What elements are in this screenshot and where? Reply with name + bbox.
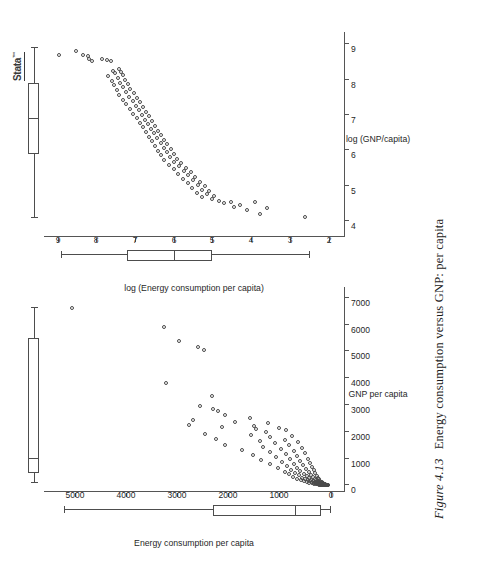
scatter-point xyxy=(223,443,227,447)
scatter-point xyxy=(141,105,145,109)
scatter-point xyxy=(162,158,166,162)
scatter-point xyxy=(177,164,181,168)
x-tick xyxy=(345,404,349,405)
scatter-point xyxy=(265,206,269,210)
boxplot-whisker-cap xyxy=(64,507,65,514)
scatter-point xyxy=(200,188,204,192)
x-tick xyxy=(345,324,349,325)
scatter-point xyxy=(279,447,283,451)
x-tick xyxy=(345,458,349,459)
scatter-point xyxy=(303,451,307,455)
scatter-point xyxy=(258,439,262,443)
scatter-point xyxy=(232,205,236,209)
y-tick-label: 4000 xyxy=(116,490,135,500)
y-tick-label: 2 xyxy=(326,235,331,245)
x-tick xyxy=(345,484,349,485)
scatter-point xyxy=(121,85,125,89)
y-tick-label: 9 xyxy=(55,235,60,245)
boxplot-median-line xyxy=(174,250,175,261)
scatter-point xyxy=(196,345,200,349)
scatter-point xyxy=(292,449,296,453)
scatter-point xyxy=(116,76,120,80)
scatter-point xyxy=(131,112,135,116)
scatter-point xyxy=(124,102,128,106)
boxplot-whisker-cap xyxy=(31,482,38,483)
x-tick xyxy=(345,297,349,298)
scatter-point xyxy=(81,53,85,57)
scatter-point xyxy=(211,407,215,411)
scatter-point xyxy=(326,483,330,487)
y-tick-label: 7 xyxy=(133,235,138,245)
x-tick-label: 7000 xyxy=(351,298,370,308)
scatter-point xyxy=(266,421,270,425)
scatter-point xyxy=(153,124,157,128)
scatter-point xyxy=(277,426,281,430)
scatter-point xyxy=(292,462,296,466)
scatter-point xyxy=(290,434,294,438)
scatter-point xyxy=(118,81,122,85)
scatter-point xyxy=(128,87,132,91)
x-tick-label: 6000 xyxy=(351,325,370,335)
x-tick xyxy=(345,79,349,80)
scatter-point xyxy=(289,468,293,472)
scatter-point xyxy=(220,425,224,429)
scatter-point xyxy=(273,442,277,446)
scatter-point xyxy=(248,416,252,420)
y-tick-label: 5000 xyxy=(65,490,84,500)
scatter-point xyxy=(186,174,190,178)
x-tick xyxy=(345,377,349,378)
x-tick-label: 1000 xyxy=(351,459,370,469)
y-tick-label: 4 xyxy=(249,235,254,245)
scatter-point xyxy=(150,139,154,143)
x-tick-label: 2000 xyxy=(351,432,370,442)
x-tick-label: 0 xyxy=(351,485,356,495)
boxplot-median-line xyxy=(295,505,296,516)
scatter-point xyxy=(284,452,288,456)
scatter-point xyxy=(251,453,255,457)
scatter-point xyxy=(172,160,176,164)
scatter-point xyxy=(112,83,116,87)
scatter-point xyxy=(127,95,131,99)
scatter-point xyxy=(190,186,194,190)
y-tick-label: 0 xyxy=(328,490,333,500)
y-tick-label: 6 xyxy=(171,235,176,245)
scatter-point xyxy=(152,131,156,135)
scatter-point xyxy=(172,152,176,156)
scatter-point xyxy=(229,200,233,204)
x-tick xyxy=(345,114,349,115)
scatter-point xyxy=(245,209,249,213)
boxplot-whisker-cap xyxy=(31,307,38,308)
scatter-point xyxy=(177,339,181,343)
x-tick xyxy=(345,43,349,44)
x-tick xyxy=(345,149,349,150)
scatter-point xyxy=(249,433,253,437)
y-axis-title: log (Energy consumption per capita) xyxy=(124,283,264,293)
boxplot-whisker-cap xyxy=(31,217,38,218)
scatter-point xyxy=(167,163,171,167)
boxplot-median-line xyxy=(28,118,39,119)
x-tick-label: 8 xyxy=(351,80,356,90)
scatter-point xyxy=(176,172,180,176)
scatter-point xyxy=(121,73,125,77)
scatter-point xyxy=(259,458,263,462)
y-tick-label: 5 xyxy=(210,235,215,245)
scatter-point xyxy=(124,90,128,94)
scatter-point xyxy=(186,181,190,185)
y-tick-label: 3 xyxy=(287,235,292,245)
scatter-point xyxy=(115,88,119,92)
y-tick-label: 2000 xyxy=(219,490,238,500)
y-axis-line xyxy=(44,491,344,492)
scatter-point xyxy=(191,418,195,422)
x-tick xyxy=(345,431,349,432)
x-tick-label: 4 xyxy=(351,221,356,231)
boxplot-whisker-cap xyxy=(309,252,310,259)
scatter-point xyxy=(268,450,272,454)
scatter-point xyxy=(210,197,214,201)
scatter-point xyxy=(222,201,226,205)
y-tick-label: 8 xyxy=(94,235,99,245)
scatter-point xyxy=(274,455,278,459)
scatter-point xyxy=(162,138,166,142)
scatter-point xyxy=(261,445,265,449)
scatter-point xyxy=(144,110,148,114)
scatter-point xyxy=(233,420,237,424)
